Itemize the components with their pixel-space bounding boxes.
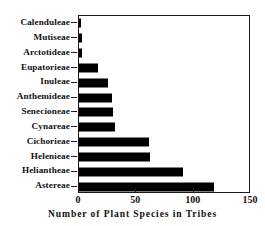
x-axis-tick: [78, 188, 79, 193]
x-axis-tick-label: 0: [76, 194, 81, 205]
x-axis-tick-label: 100: [185, 194, 200, 205]
y-axis-tick: [71, 111, 77, 112]
y-axis-tick: [71, 141, 77, 142]
y-axis-tick: [71, 97, 77, 98]
x-axis-tick: [193, 188, 194, 193]
y-axis-tick: [71, 67, 77, 68]
y-axis-ticks: [0, 15, 78, 193]
x-axis-tick: [135, 188, 136, 193]
x-axis-ticks: [78, 15, 250, 193]
y-axis-tick: [71, 82, 77, 83]
x-axis-tick-label: 50: [130, 194, 140, 205]
x-axis-tick-label: 150: [243, 194, 258, 205]
y-axis-tick: [71, 171, 77, 172]
x-axis-title: Number of Plant Species in Tribes: [0, 208, 265, 219]
y-axis-tick: [71, 37, 77, 38]
x-axis-tick-labels: 050100150: [78, 194, 250, 207]
y-axis-tick: [71, 22, 77, 23]
y-axis-tick: [71, 52, 77, 53]
y-axis-tick: [71, 186, 77, 187]
y-axis-tick: [71, 156, 77, 157]
x-axis-tick: [249, 188, 250, 193]
chart-figure: CalenduleaeMutiseaeArctotideaeEupatoriea…: [0, 0, 265, 226]
y-axis-tick: [71, 126, 77, 127]
